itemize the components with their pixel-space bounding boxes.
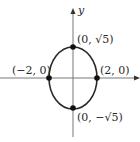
label-right: (2, 0) xyxy=(100,64,130,77)
label-top: (0, √5) xyxy=(77,33,114,46)
diagram-svg: y (0, √5) (0, −√5) (−2, 0) (2, 0) xyxy=(0,0,140,142)
point-bottom xyxy=(70,105,76,111)
y-axis-label: y xyxy=(77,4,85,17)
label-left: (−2, 0) xyxy=(12,64,51,77)
point-right xyxy=(94,75,100,81)
y-axis-arrow-icon xyxy=(71,8,76,14)
label-bottom: (0, −√5) xyxy=(77,111,123,124)
ellipse-diagram: y (0, √5) (0, −√5) (−2, 0) (2, 0) xyxy=(0,0,140,142)
point-top xyxy=(70,44,76,50)
x-axis-arrow-icon xyxy=(134,76,140,81)
